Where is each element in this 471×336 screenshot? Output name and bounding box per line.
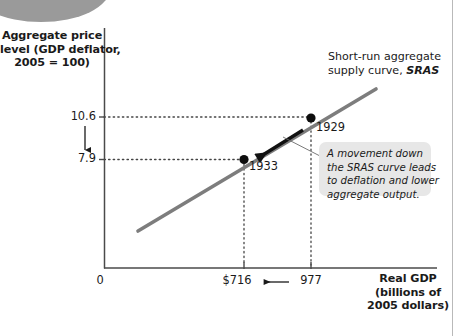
sras-curve-label-line1: Short-run aggregate [328, 50, 441, 63]
point-1933-marker [239, 155, 248, 164]
point-1929-label: 1929 [316, 121, 345, 135]
y-tick-label-10-6: 10.6 [56, 110, 96, 124]
x-tick-label-716: $716 [214, 274, 260, 288]
x-tick-label-977: 977 [291, 274, 331, 288]
sras-curve-label-line2-prefix: supply curve, [328, 64, 406, 77]
point-1933-label: 1933 [249, 160, 278, 174]
callout-leader-line [283, 137, 320, 156]
point-1929-marker [306, 113, 315, 122]
origin-label: 0 [90, 274, 110, 288]
x-axis-title: Real GDP (billions of 2005 dollars) [352, 272, 464, 313]
sras-curve-figure: Aggregate price level (GDP deflator, 200… [0, 0, 471, 336]
callout-text: A movement down the SRAS curve leads to … [327, 147, 431, 201]
y-tick-label-7-9: 7.9 [56, 152, 96, 166]
sras-curve-label: Short-run aggregate supply curve, SRAS [328, 50, 464, 78]
y-axis-title: Aggregate price level (GDP deflator, 200… [0, 29, 104, 70]
sras-curve-label-acronym: SRAS [406, 64, 439, 77]
